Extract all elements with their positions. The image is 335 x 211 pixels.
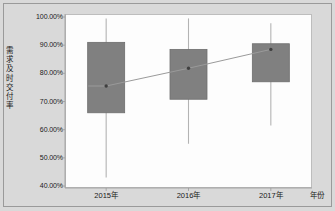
box-rect [170, 49, 207, 99]
mean-marker [104, 84, 107, 87]
chart-container: 100.00%90.00%80.00%70.00%60.00%50.00%40.… [0, 0, 335, 211]
box-plot-graphics [0, 0, 335, 211]
box-rect [88, 42, 125, 112]
mean-marker [269, 48, 272, 51]
mean-marker [187, 67, 190, 70]
